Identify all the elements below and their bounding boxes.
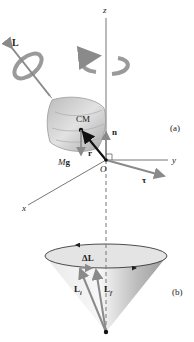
y-axis-label: y	[172, 156, 176, 165]
diagram-graphics	[0, 0, 194, 342]
spinning-top	[47, 97, 105, 151]
origin-label: O	[100, 165, 107, 174]
CM-label: CM	[76, 115, 90, 124]
L-initial-label: Li	[74, 285, 82, 296]
part-a-label: (a)	[170, 124, 180, 133]
precession-arrow-left	[83, 56, 98, 72]
precession-arrow-right	[112, 58, 128, 74]
delta-L-label: ΔL	[82, 254, 94, 263]
x-axis-label: x	[22, 204, 26, 213]
n-label: n	[112, 128, 117, 137]
precession-diagram: z L CM n (a) r Mg O y τ x ΔL Li Lf (b)	[0, 0, 194, 342]
Mg-label: Mg	[58, 158, 70, 167]
L-final-label: Lf	[104, 285, 112, 296]
z-axis-label: z	[103, 6, 107, 15]
tau-label: τ	[142, 176, 146, 185]
torque-vector	[106, 160, 164, 176]
L-label: L	[12, 38, 19, 48]
spin-arrow-icon	[10, 49, 46, 83]
cone-apex-dot	[104, 330, 108, 334]
part-b-label: (b)	[172, 288, 183, 297]
r-label: r	[88, 149, 92, 158]
